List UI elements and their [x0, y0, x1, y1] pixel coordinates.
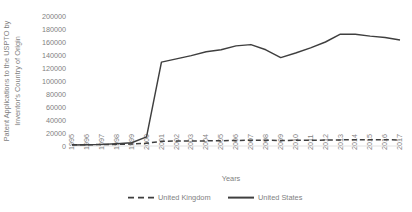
- y-axis-title-line: Patent Applications to the USPTO by: [2, 20, 11, 141]
- y-tick-label: 160000: [42, 38, 66, 47]
- x-tick-label: 2006: [231, 134, 240, 150]
- y-tick-label: 120000: [42, 64, 66, 73]
- chart-legend: United KingdomUnited States: [128, 193, 303, 202]
- y-axis-tick-labels: 0200004000060000800001000001200001400001…: [42, 12, 66, 151]
- x-tick-label: 2017: [395, 134, 404, 150]
- x-tick-label: 2012: [321, 134, 330, 150]
- x-tick-label: 2002: [172, 134, 181, 150]
- y-tick-label: 0: [62, 142, 66, 151]
- x-tick-label: 1995: [67, 134, 76, 150]
- x-tick-label: 2003: [186, 134, 195, 150]
- x-tick-label: 2013: [336, 134, 345, 150]
- x-tick-label: 1998: [112, 134, 121, 150]
- x-tick-label: 2010: [291, 134, 300, 150]
- legend-label-united-states: United States: [258, 193, 303, 202]
- x-tick-label: 1996: [82, 134, 91, 150]
- y-tick-label: 140000: [42, 51, 66, 60]
- y-axis-title: Patent Applications to the USPTO byInven…: [2, 20, 22, 141]
- y-tick-label: 200000: [42, 12, 66, 21]
- y-tick-label: 80000: [46, 90, 66, 99]
- y-tick-label: 40000: [46, 116, 66, 125]
- legend-label-united-kingdom: United Kingdom: [158, 193, 211, 202]
- x-tick-label: 2016: [380, 134, 389, 150]
- x-tick-label: 2014: [350, 134, 359, 150]
- y-tick-label: 100000: [42, 77, 66, 86]
- y-tick-label: 60000: [46, 103, 66, 112]
- y-tick-label: 180000: [42, 25, 66, 34]
- y-axis-title-line: Inventor's Country of Origin: [13, 36, 22, 126]
- line-chart: Patent Applications to the USPTO byInven…: [0, 0, 412, 212]
- chart-container: Patent Applications to the USPTO byInven…: [0, 0, 412, 212]
- x-tick-label: 1997: [97, 134, 106, 150]
- x-axis-title: Years: [222, 174, 241, 183]
- x-tick-label: 2004: [201, 134, 210, 150]
- x-tick-label: 2015: [365, 134, 374, 150]
- x-tick-label: 2005: [216, 134, 225, 150]
- y-tick-label: 20000: [46, 129, 66, 138]
- x-axis-title-text: Years: [222, 174, 241, 183]
- x-tick-label: 2011: [306, 135, 315, 150]
- data-series: [72, 34, 400, 145]
- x-tick-label: 2008: [261, 134, 270, 150]
- x-tick-label: 2007: [246, 134, 255, 150]
- series-line-united-states: [72, 34, 400, 145]
- x-axis-tick-labels: 1995199619971998199920002001200220032004…: [67, 134, 404, 150]
- x-tick-label: 2009: [276, 134, 285, 150]
